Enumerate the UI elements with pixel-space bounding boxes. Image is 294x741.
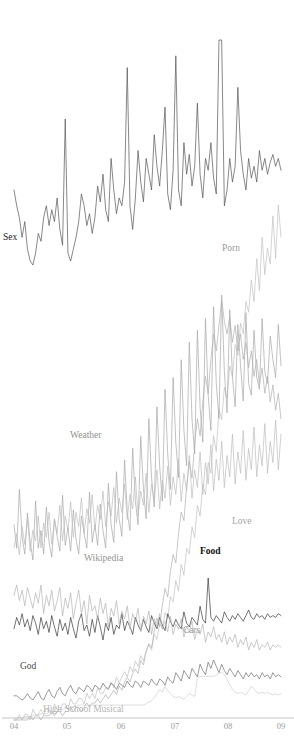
series-line-god	[14, 660, 281, 700]
series-label-love: Love	[232, 516, 252, 526]
series-label-high-school-musical: High School Musical	[43, 704, 124, 714]
series-line-sex	[14, 40, 281, 265]
trends-chart: 040506070809 SexPornWeatherLoveWikipedia…	[0, 0, 294, 741]
x-tick-09: 09	[277, 721, 286, 731]
series-label-sex: Sex	[3, 232, 18, 242]
series-label-wikipedia: Wikipedia	[84, 553, 124, 563]
series-label-porn: Porn	[222, 243, 240, 253]
x-tick-08: 08	[224, 721, 233, 731]
series-labels: SexPornWeatherLoveWikipediaFoodCarsGodHi…	[3, 232, 252, 714]
series-label-food: Food	[200, 546, 221, 556]
series-line-wikipedia	[14, 300, 281, 720]
series-label-god: God	[20, 661, 37, 671]
x-tick-07: 07	[171, 721, 180, 731]
series-line-love	[14, 420, 281, 555]
series-label-weather: Weather	[70, 430, 102, 440]
x-tick-04: 04	[10, 721, 19, 731]
x-axis-tick-labels: 040506070809	[10, 721, 286, 731]
series-layer	[14, 40, 281, 720]
x-tick-05: 05	[63, 721, 72, 731]
trends-chart-svg: 040506070809 SexPornWeatherLoveWikipedia…	[0, 0, 294, 741]
x-tick-06: 06	[117, 721, 126, 731]
series-label-cars: Cars	[183, 625, 201, 635]
